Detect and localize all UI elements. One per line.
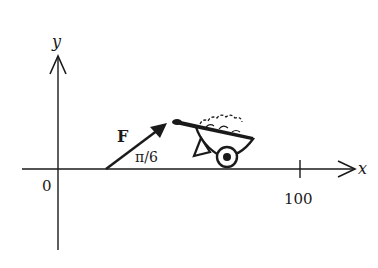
angle-label: π/6 [135, 149, 158, 165]
y-axis-label: y [51, 32, 62, 51]
x-axis-label: x [358, 159, 367, 178]
diagram-canvas: y x 0 100 F π/6 [0, 0, 378, 268]
origin-label: 0 [42, 177, 52, 195]
force-label: F [117, 127, 129, 146]
wheelbarrow-icon [172, 115, 253, 167]
x-axis [22, 160, 355, 178]
force-arrowhead-icon [150, 123, 167, 138]
x-tick-label: 100 [284, 190, 313, 208]
y-axis [50, 56, 66, 250]
